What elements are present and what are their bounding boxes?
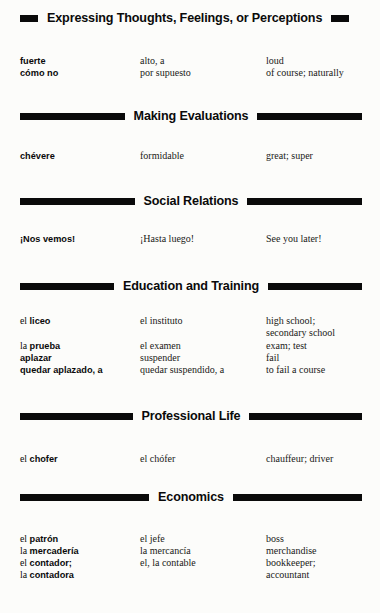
section-rule-right [268, 283, 362, 290]
entry-synonym: por supuesto [140, 67, 266, 79]
section-title: Making Evaluations [132, 110, 251, 123]
section-rule-left [20, 15, 38, 22]
entry-article: el [20, 533, 30, 544]
entry-article: la [20, 340, 30, 351]
entry-english: merchandise [266, 545, 378, 557]
section-title: Social Relations [142, 195, 241, 208]
section-rule-left [20, 494, 149, 501]
entry-spanish-term: el liceo [20, 315, 140, 328]
entry-article: la [20, 545, 30, 556]
entry-synonym: el chófer [140, 453, 266, 465]
entry-english: high school;secondary school [266, 315, 378, 338]
entry-headword: quedar aplazado, a [20, 365, 103, 375]
section-header-social-relations: Social Relations [20, 195, 362, 208]
entry-line: high school; [266, 315, 378, 327]
entry-headword: mercadería [30, 546, 79, 556]
entry-spanish-term: la mercadería [20, 545, 140, 558]
section-rule-left [20, 413, 133, 420]
entry-spanish-term: quedar aplazado, a [20, 364, 140, 377]
entry-spanish-term: el chofer [20, 453, 140, 466]
entry-synonym: el, la contable [140, 557, 266, 569]
entry-english: to fail a course [266, 364, 378, 376]
entry-line: secondary school [266, 327, 378, 339]
entry-headword: contador; [30, 558, 72, 568]
entry-english: accountant [266, 569, 378, 581]
entry-english: great; super [266, 150, 378, 162]
section-rule-left [20, 283, 114, 290]
entry-synonym: suspender [140, 352, 266, 364]
entry-headword: fuerte [20, 56, 46, 66]
entry-english: fail [266, 352, 378, 364]
section-header-economics: Economics [20, 491, 362, 504]
entry-english: See you later! [266, 233, 378, 245]
entry-spanish-term: ¡Nos vemos! [20, 233, 140, 246]
entry-english: bookkeeper; [266, 557, 378, 569]
section-rule-right [247, 198, 362, 205]
entry-english: exam; test [266, 340, 378, 352]
entry-headword: liceo [30, 316, 51, 326]
entry-headword: ¡Nos vemos! [20, 234, 75, 244]
entry-synonym: la mercancía [140, 545, 266, 557]
section-header-expressing-thoughts-feelings-or-perceptions: Expressing Thoughts, Feelings, or Percep… [20, 12, 362, 25]
section-title: Education and Training [121, 280, 261, 293]
entry-english: of course; naturally [266, 67, 378, 79]
entry-article: el [20, 453, 30, 464]
entry-headword: prueba [30, 341, 61, 351]
entry-synonym: formidable [140, 150, 266, 162]
entry-headword: patrón [30, 534, 59, 544]
section-rule-right [233, 494, 362, 501]
entry-synonym: el instituto [140, 315, 266, 327]
entry-spanish-term: aplazar [20, 352, 140, 365]
entry-spanish-term: el patrón [20, 533, 140, 546]
section-rule-left [20, 113, 125, 120]
section-rule-right [249, 413, 362, 420]
entry-spanish-term: la contadora [20, 569, 140, 582]
entry-synonym: el examen [140, 340, 266, 352]
entry-spanish-term: chévere [20, 150, 140, 163]
entry-spanish-term: cómo no [20, 67, 140, 80]
entry-english: chauffeur; driver [266, 453, 378, 465]
section-title: Professional Life [140, 410, 243, 423]
entry-headword: contadora [30, 570, 74, 580]
section-title: Expressing Thoughts, Feelings, or Percep… [45, 12, 324, 25]
section-header-education-and-training: Education and Training [20, 280, 362, 293]
section-title: Economics [156, 491, 226, 504]
section-header-making-evaluations: Making Evaluations [20, 110, 362, 123]
vocabulary-page: Expressing Thoughts, Feelings, or Percep… [0, 0, 380, 613]
entry-headword: cómo no [20, 68, 58, 78]
entry-synonym: el jefe [140, 533, 266, 545]
entry-spanish-term: la prueba [20, 340, 140, 353]
entry-article: el [20, 315, 30, 326]
section-header-professional-life: Professional Life [20, 410, 362, 423]
entry-headword: chévere [20, 151, 55, 161]
entry-synonym: alto, a [140, 55, 266, 67]
section-rule-right [331, 15, 349, 22]
entry-headword: chofer [30, 454, 58, 464]
entry-headword: aplazar [20, 353, 52, 363]
entry-article: el [20, 557, 30, 568]
section-rule-right [257, 113, 362, 120]
entry-synonym: quedar suspendido, a [140, 364, 266, 376]
entry-spanish-term: fuerte [20, 55, 140, 68]
entry-synonym: ¡Hasta luego! [140, 233, 266, 245]
entry-english: loud [266, 55, 378, 67]
entry-article: la [20, 569, 30, 580]
entry-english: boss [266, 533, 378, 545]
section-rule-left [20, 198, 135, 205]
entry-spanish-term: el contador; [20, 557, 140, 570]
